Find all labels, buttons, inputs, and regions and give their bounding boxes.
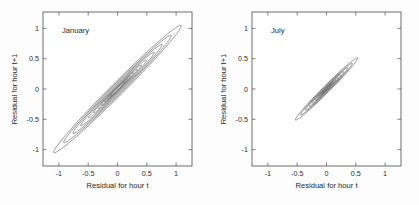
- january-contour-plot: -1 -0.5 0 0.5 1 1 0.5 0 -0.5 -1 Residual…: [0, 0, 209, 205]
- january-panel-title: January: [62, 26, 89, 35]
- january-xticklabel: -0.5: [82, 169, 94, 178]
- july-xticklabel: 0.5: [351, 169, 361, 178]
- january-xticklabel: 0.5: [142, 169, 152, 178]
- july-contour-plot: -1 -0.5 0 0.5 1 1 0.5 0 -0.5 -1 Residual…: [210, 0, 419, 205]
- july-yticklabel: -1: [242, 145, 248, 154]
- january-yticklabel: 0.5: [29, 54, 39, 63]
- figure-container: -1 -0.5 0 0.5 1 1 0.5 0 -0.5 -1 Residual…: [0, 0, 419, 205]
- july-xticklabel: 0: [325, 169, 329, 178]
- january-xticklabel: -1: [56, 169, 62, 178]
- july-axes-frame: [252, 12, 401, 166]
- panel-january: -1 -0.5 0 0.5 1 1 0.5 0 -0.5 -1 Residual…: [0, 0, 209, 205]
- july-yticklabel: 0: [244, 85, 248, 94]
- july-yticklabel: -0.5: [236, 115, 248, 124]
- july-yticklabel: 1: [244, 24, 248, 33]
- panel-july: -1 -0.5 0 0.5 1 1 0.5 0 -0.5 -1 Residual…: [210, 0, 419, 205]
- july-yticklabel: 0.5: [238, 54, 248, 63]
- january-yticklabel: 0: [35, 85, 39, 94]
- july-x-axis-title: Residual for hour t: [295, 181, 358, 190]
- january-yticklabel: -1: [33, 145, 39, 154]
- january-xticklabel: 0: [116, 169, 120, 178]
- january-x-axis-title: Residual for hour t: [86, 181, 149, 190]
- july-xticklabel: 1: [383, 169, 387, 178]
- january-yticklabel: 1: [35, 24, 39, 33]
- july-xticklabel: -1: [265, 169, 271, 178]
- july-panel-title: July: [271, 26, 285, 35]
- january-xticklabel: 1: [174, 169, 178, 178]
- january-y-axis-title: Residual for hour t+1: [10, 54, 19, 125]
- january-yticklabel: -0.5: [27, 115, 39, 124]
- july-y-axis-title: Residual for hour t+1: [219, 54, 228, 125]
- july-xticklabel: -0.5: [291, 169, 303, 178]
- january-axes-frame: [43, 12, 192, 166]
